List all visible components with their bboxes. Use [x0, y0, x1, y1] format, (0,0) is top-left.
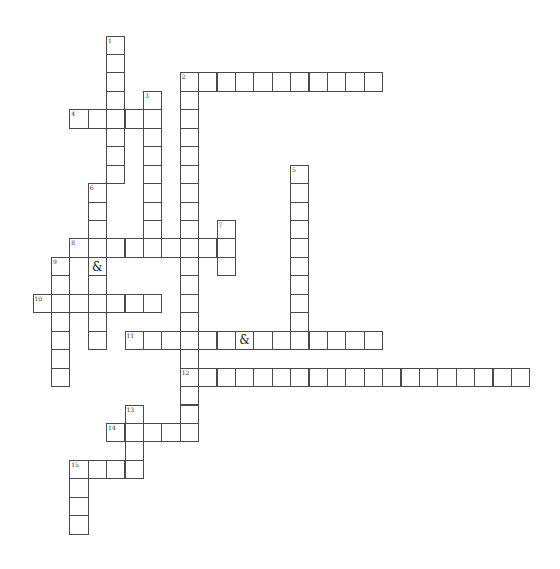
crossword-cell[interactable]	[180, 91, 199, 110]
crossword-cell[interactable]	[382, 368, 401, 387]
crossword-cell[interactable]: 12	[180, 368, 199, 387]
crossword-cell[interactable]	[51, 294, 70, 313]
crossword-cell[interactable]	[327, 368, 346, 387]
crossword-cell[interactable]	[143, 165, 162, 184]
crossword-cell[interactable]: 8	[69, 238, 88, 257]
crossword-cell[interactable]	[143, 109, 162, 128]
crossword-cell[interactable]	[125, 238, 144, 257]
crossword-cell[interactable]	[253, 368, 272, 387]
crossword-cell[interactable]	[290, 312, 309, 331]
crossword-cell[interactable]	[217, 238, 236, 257]
crossword-cell[interactable]: 11	[125, 331, 144, 350]
crossword-cell[interactable]	[180, 109, 199, 128]
crossword-cell[interactable]	[198, 72, 217, 91]
crossword-cell[interactable]	[106, 72, 125, 91]
crossword-cell[interactable]	[364, 72, 383, 91]
crossword-cell[interactable]: 7	[217, 220, 236, 239]
crossword-cell[interactable]	[290, 368, 309, 387]
crossword-cell[interactable]	[180, 128, 199, 147]
crossword-cell[interactable]: 13	[125, 405, 144, 424]
crossword-cell[interactable]	[290, 183, 309, 202]
crossword-cell[interactable]	[143, 220, 162, 239]
crossword-cell[interactable]	[290, 331, 309, 350]
crossword-cell[interactable]	[161, 331, 180, 350]
crossword-cell[interactable]	[290, 220, 309, 239]
crossword-cell[interactable]	[272, 368, 291, 387]
crossword-cell[interactable]	[180, 349, 199, 368]
crossword-cell[interactable]	[143, 128, 162, 147]
crossword-cell[interactable]	[106, 294, 125, 313]
crossword-cell[interactable]: 3	[143, 91, 162, 110]
crossword-cell[interactable]	[309, 368, 328, 387]
crossword-cell[interactable]	[198, 368, 217, 387]
crossword-cell[interactable]	[106, 238, 125, 257]
crossword-cell[interactable]	[253, 72, 272, 91]
crossword-cell[interactable]	[437, 368, 456, 387]
crossword-cell[interactable]	[88, 202, 107, 221]
crossword-cell[interactable]	[364, 368, 383, 387]
crossword-cell[interactable]	[272, 72, 291, 91]
crossword-cell[interactable]	[161, 238, 180, 257]
crossword-cell[interactable]	[51, 275, 70, 294]
crossword-cell[interactable]	[143, 423, 162, 442]
crossword-cell[interactable]	[161, 423, 180, 442]
crossword-cell[interactable]	[180, 275, 199, 294]
crossword-cell[interactable]	[88, 238, 107, 257]
crossword-cell[interactable]	[143, 202, 162, 221]
crossword-cell[interactable]: 9	[51, 257, 70, 276]
crossword-cell[interactable]	[88, 220, 107, 239]
crossword-cell[interactable]	[235, 368, 254, 387]
crossword-cell[interactable]	[51, 312, 70, 331]
crossword-cell[interactable]	[69, 515, 88, 534]
crossword-cell[interactable]	[290, 294, 309, 313]
crossword-cell[interactable]	[198, 238, 217, 257]
crossword-cell[interactable]	[180, 386, 199, 405]
crossword-cell[interactable]	[106, 54, 125, 73]
crossword-cell[interactable]	[327, 331, 346, 350]
crossword-cell[interactable]	[180, 183, 199, 202]
crossword-cell[interactable]	[180, 312, 199, 331]
crossword-cell[interactable]	[180, 202, 199, 221]
crossword-cell[interactable]	[88, 109, 107, 128]
crossword-cell[interactable]	[106, 128, 125, 147]
crossword-cell[interactable]	[180, 165, 199, 184]
crossword-cell[interactable]	[272, 331, 291, 350]
crossword-cell[interactable]	[345, 331, 364, 350]
crossword-cell[interactable]	[217, 368, 236, 387]
crossword-cell[interactable]	[125, 109, 144, 128]
crossword-cell[interactable]	[143, 294, 162, 313]
crossword-cell[interactable]	[235, 72, 254, 91]
crossword-cell[interactable]	[401, 368, 420, 387]
crossword-cell[interactable]	[180, 294, 199, 313]
crossword-cell[interactable]	[290, 202, 309, 221]
crossword-cell[interactable]	[180, 423, 199, 442]
crossword-cell[interactable]	[180, 238, 199, 257]
crossword-cell[interactable]	[309, 72, 328, 91]
crossword-cell[interactable]	[69, 497, 88, 516]
crossword-cell[interactable]: 1	[106, 36, 125, 55]
crossword-cell[interactable]	[253, 331, 272, 350]
crossword-cell[interactable]	[88, 275, 107, 294]
crossword-cell[interactable]	[143, 146, 162, 165]
crossword-cell[interactable]	[143, 183, 162, 202]
crossword-cell[interactable]	[51, 349, 70, 368]
crossword-cell[interactable]: 15	[69, 460, 88, 479]
crossword-cell[interactable]	[125, 294, 144, 313]
crossword-cell[interactable]	[125, 423, 144, 442]
crossword-cell[interactable]	[106, 146, 125, 165]
crossword-cell[interactable]	[69, 294, 88, 313]
crossword-cell[interactable]	[364, 331, 383, 350]
crossword-cell[interactable]	[143, 331, 162, 350]
crossword-cell[interactable]	[309, 331, 328, 350]
crossword-cell[interactable]: 5	[290, 165, 309, 184]
crossword-cell[interactable]	[180, 331, 199, 350]
crossword-cell[interactable]: 4	[69, 109, 88, 128]
crossword-cell[interactable]: 10	[33, 294, 52, 313]
crossword-cell[interactable]	[290, 72, 309, 91]
crossword-cell[interactable]	[88, 331, 107, 350]
crossword-cell[interactable]	[511, 368, 530, 387]
crossword-cell[interactable]	[51, 331, 70, 350]
crossword-cell[interactable]	[106, 460, 125, 479]
crossword-cell[interactable]	[456, 368, 475, 387]
crossword-cell[interactable]	[106, 165, 125, 184]
